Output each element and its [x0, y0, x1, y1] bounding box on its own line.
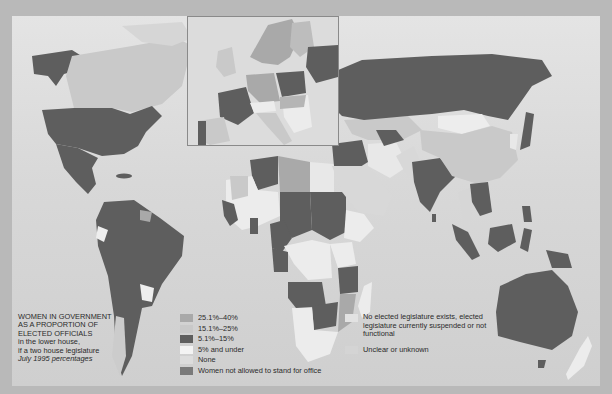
region-cuba: [116, 174, 132, 179]
legend-swatch: [180, 346, 193, 354]
legend-label: None: [198, 355, 216, 366]
legend-swatch: [180, 325, 193, 333]
legend-column-1: 25.1%–40% 15.1%–25% 5.1%–15% 5% and unde…: [180, 313, 321, 376]
region-libya: [278, 156, 310, 192]
legend-label: 15.1%–25%: [198, 324, 238, 335]
legend-item: 15.1%–25%: [180, 324, 321, 335]
region-russia: [324, 54, 552, 120]
legend-column-2: No elected legislature exists, elected l…: [345, 313, 495, 355]
region-philippines: [522, 206, 532, 222]
region-sulawesi: [520, 228, 532, 252]
region-ghana: [250, 218, 258, 234]
legend-item: 5.1%–15%: [180, 334, 321, 345]
legend-item: 25.1%–40%: [180, 313, 321, 324]
region-uganda-kenya: [330, 242, 356, 268]
map-panel: WOMEN IN GOVERNMENT AS A PROPORTION OF E…: [12, 16, 600, 386]
legend-swatch: [180, 367, 193, 375]
legend-label: Unclear or unknown: [363, 345, 429, 356]
region-angola: [288, 282, 326, 308]
region-central-africa: [284, 240, 332, 280]
region-sri-lanka: [432, 214, 436, 222]
region-borneo: [488, 224, 516, 252]
region-new-zealand: [566, 336, 592, 380]
legend-heading: WOMEN IN GOVERNMENT AS A PROPORTION OF E…: [18, 313, 168, 363]
region-thailand: [458, 188, 472, 226]
legend-label: 5% and under: [198, 345, 244, 356]
europe-inset: [187, 16, 339, 146]
region-mauritania: [230, 176, 248, 200]
region-australia: [496, 270, 578, 350]
legend-item: Unclear or unknown: [345, 345, 495, 356]
legend-swatch: [180, 335, 193, 343]
region-egypt: [310, 162, 334, 192]
region-tasmania: [538, 360, 546, 368]
region-ethiopia-horn: [344, 210, 374, 242]
legend-swatch: [345, 314, 358, 322]
region-indochina: [470, 182, 492, 216]
region-tanzania: [338, 266, 358, 294]
region-japan: [520, 112, 534, 150]
region-sudan: [310, 192, 346, 240]
region-alps: [250, 101, 276, 113]
region-czech-hungary: [280, 95, 306, 109]
legend-heading-date: July 1995 percentages: [18, 355, 168, 363]
legend-swatch: [180, 314, 193, 322]
region-gabon-congo: [272, 248, 288, 272]
region-sumatra: [452, 224, 480, 260]
region-canada: [66, 38, 192, 112]
region-korea: [510, 134, 518, 150]
legend-swatch: [180, 356, 193, 364]
legend-label: 25.1%–40%: [198, 313, 238, 324]
legend-item: 5% and under: [180, 345, 321, 356]
legend-label: Women not allowed to stand for office: [198, 366, 321, 377]
legend-swatch: [345, 346, 358, 354]
europe-inset-map: [188, 17, 338, 145]
region-new-guinea: [546, 250, 572, 268]
region-portugal: [198, 121, 206, 145]
legend-item: Women not allowed to stand for office: [180, 366, 321, 377]
legend-label: No elected legislature exists, elected l…: [363, 313, 495, 339]
legend-item: No elected legislature exists, elected l…: [345, 313, 495, 339]
legend-item: None: [180, 355, 321, 366]
region-guyana: [140, 210, 152, 222]
legend-label: 5.1%–15%: [198, 334, 234, 345]
